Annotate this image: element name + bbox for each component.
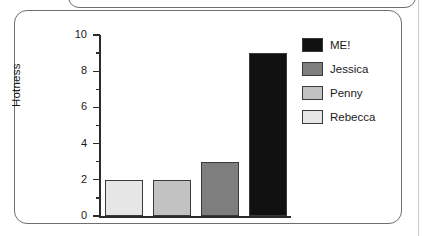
legend-label: Penny [330,87,363,99]
bar-series [101,35,293,216]
legend-swatch-icon [302,86,323,100]
y-tick-label: 8 [61,65,87,76]
y-tick-major [93,215,100,216]
y-tick-minor [96,197,101,198]
y-tick-minor [96,125,101,126]
y-tick-major [93,71,100,72]
y-tick-major [93,143,100,144]
y-tick-minor [96,52,101,53]
y-tick-label: 2 [61,174,87,185]
screenshot-stage: Hotness 0246810 ME!JessicaPennyRebecca [0,0,424,236]
y-tick-minor [96,161,101,162]
y-tick-major [93,34,100,35]
legend-label: Rebecca [330,111,375,123]
page-edge-rule [418,0,419,236]
y-tick-minor [96,89,101,90]
chart-legend: ME!JessicaPennyRebecca [302,33,407,129]
bar-me [249,53,288,216]
legend-label: Jessica [330,63,368,75]
panel-above-partial [68,0,416,8]
bar-penny [153,180,192,216]
legend-item: Rebecca [302,105,407,129]
y-tick-label: 6 [61,101,87,112]
legend-swatch-icon [302,38,323,52]
y-tick-label: 4 [61,138,87,149]
bar-rebecca [105,180,144,216]
y-tick-label: 10 [61,29,87,40]
chart-panel: Hotness 0246810 ME!JessicaPennyRebecca [14,10,402,224]
legend-label: ME! [330,39,350,51]
legend-item: ME! [302,33,407,57]
bar-jessica [201,162,240,216]
y-tick-major [93,107,100,108]
y-tick-label: 0 [61,210,87,221]
legend-item: Jessica [302,57,407,81]
legend-item: Penny [302,81,407,105]
legend-swatch-icon [302,110,323,124]
y-axis-title: Hotness [10,63,22,107]
legend-swatch-icon [302,62,323,76]
x-axis-line [99,216,291,218]
y-tick-major [93,179,100,180]
